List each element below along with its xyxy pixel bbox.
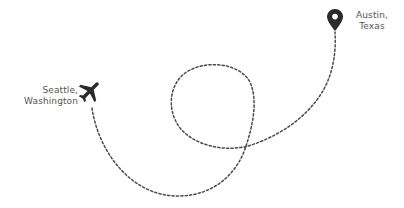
- map-pin-icon: [327, 9, 343, 35]
- destination-city: Austin,: [352, 10, 392, 21]
- destination-label: Austin, Texas: [352, 10, 392, 32]
- dashed-route-path: [92, 32, 335, 196]
- origin-city: Seattle,: [8, 85, 78, 96]
- origin-state: Washington: [8, 96, 78, 107]
- origin-label: Seattle, Washington: [8, 85, 78, 107]
- destination-state: Texas: [352, 21, 392, 32]
- airplane-icon: [76, 77, 104, 109]
